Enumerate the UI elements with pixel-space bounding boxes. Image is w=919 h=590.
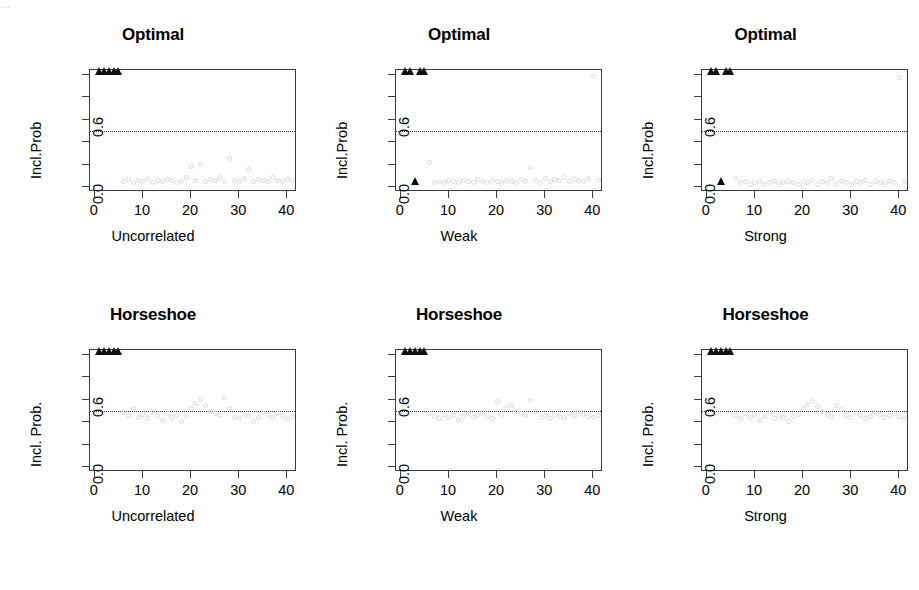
panel-2: Optimal0102030400.00.6Incl.ProbStrong <box>612 9 919 289</box>
y-tick <box>388 164 395 165</box>
noise-point <box>509 403 514 408</box>
noise-point <box>762 414 767 419</box>
noise-point <box>586 176 591 181</box>
noise-point <box>562 415 567 420</box>
x-tick <box>286 191 287 198</box>
signal-marker <box>726 347 734 355</box>
y-tick <box>694 444 701 445</box>
y-tick-label: 0.0 <box>396 464 412 484</box>
y-tick <box>694 399 701 400</box>
plot-area <box>701 349 908 471</box>
plot-area <box>395 349 602 471</box>
signal-marker <box>726 67 734 75</box>
y-tick <box>388 141 395 142</box>
y-tick <box>82 421 89 422</box>
noise-point <box>227 156 232 161</box>
signal-marker <box>420 67 428 75</box>
y-axis-label: Incl. Prob. <box>28 402 44 467</box>
figure-panel-grid: Optimal0102030400.00.6Incl.ProbUncorrela… <box>0 9 919 590</box>
x-tick-label: 20 <box>182 482 198 498</box>
x-tick-label: 0 <box>396 202 404 218</box>
noise-point <box>801 406 806 411</box>
y-tick <box>694 421 701 422</box>
noise-point <box>160 418 165 423</box>
x-axis-label: Uncorrelated <box>0 508 306 524</box>
noise-point <box>290 178 295 183</box>
threshold-line <box>90 131 295 132</box>
noise-point <box>184 175 189 180</box>
y-tick <box>388 186 395 187</box>
panel-title: Optimal <box>612 25 919 45</box>
panel-5: Horseshoe0102030400.00.6Incl. Prob.Stron… <box>612 289 919 584</box>
y-tick-label: 0.6 <box>396 397 412 417</box>
signal-marker <box>406 67 414 75</box>
noise-point <box>461 414 466 419</box>
y-tick <box>388 444 395 445</box>
y-axis-label: Incl.Prob <box>28 122 44 179</box>
x-tick <box>850 191 851 198</box>
y-tick <box>82 444 89 445</box>
y-axis-label: Incl.Prob <box>334 122 350 179</box>
noise-point <box>222 395 227 400</box>
x-tick <box>754 471 755 478</box>
x-tick-label: 40 <box>278 202 294 218</box>
noise-point <box>825 180 830 185</box>
noise-point <box>198 397 203 402</box>
noise-point <box>155 414 160 419</box>
noise-point <box>203 403 208 408</box>
noise-point <box>456 418 461 423</box>
y-tick-label: 0.0 <box>90 464 106 484</box>
x-tick-label: 40 <box>890 202 906 218</box>
noise-point <box>251 419 256 424</box>
y-tick-label: 0.0 <box>702 464 718 484</box>
noise-point <box>266 179 271 184</box>
noise-point <box>189 164 194 169</box>
y-tick <box>82 164 89 165</box>
x-tick-label: 10 <box>746 202 762 218</box>
x-tick-label: 10 <box>134 202 150 218</box>
y-tick <box>82 96 89 97</box>
x-tick-label: 20 <box>794 482 810 498</box>
x-tick <box>802 471 803 478</box>
noise-point <box>820 409 825 414</box>
x-axis-label: Weak <box>306 508 612 524</box>
x-axis-label: Strong <box>612 228 919 244</box>
noise-point <box>193 401 198 406</box>
noise-point <box>772 416 777 421</box>
panel-title: Optimal <box>306 25 612 45</box>
x-tick <box>448 471 449 478</box>
noise-point <box>738 416 743 421</box>
x-tick-label: 0 <box>90 482 98 498</box>
y-axis-label: Incl.Prob <box>640 122 656 179</box>
x-axis-label: Strong <box>612 508 919 524</box>
noise-point <box>772 179 777 184</box>
noise-point <box>495 399 500 404</box>
x-tick-label: 20 <box>488 482 504 498</box>
x-tick <box>238 191 239 198</box>
noise-point <box>581 179 586 184</box>
y-tick <box>694 119 701 120</box>
x-tick-label: 40 <box>584 482 600 498</box>
noise-point <box>591 74 596 79</box>
x-tick <box>754 191 755 198</box>
noise-point <box>757 418 762 423</box>
x-tick-label: 20 <box>794 202 810 218</box>
y-tick <box>82 141 89 142</box>
y-tick-label: 0.6 <box>702 117 718 137</box>
y-tick-label: 0.6 <box>702 397 718 417</box>
panel-1: Optimal0102030400.00.6Incl.ProbWeak <box>306 9 612 289</box>
noise-point <box>189 406 194 411</box>
y-tick <box>694 74 701 75</box>
noise-point <box>562 175 567 180</box>
noise-point <box>217 413 222 418</box>
noise-point <box>150 409 155 414</box>
noise-point <box>451 413 456 418</box>
x-tick <box>544 471 545 478</box>
noise-point <box>160 179 165 184</box>
y-tick <box>694 96 701 97</box>
x-tick-label: 20 <box>488 202 504 218</box>
y-tick-label: 0.0 <box>396 184 412 204</box>
x-tick <box>238 471 239 478</box>
x-tick-label: 30 <box>842 202 858 218</box>
noise-point <box>543 413 548 418</box>
